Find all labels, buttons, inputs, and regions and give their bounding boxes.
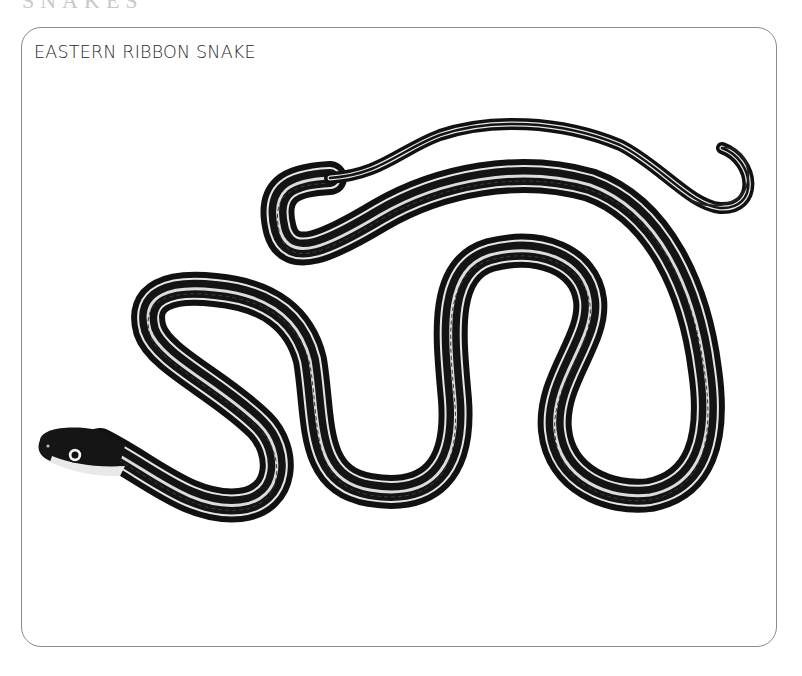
snake-illustration [0,0,802,676]
snake-body-outline [100,176,708,505]
snake-stripe-outer [100,176,708,505]
snake-scale-texture [100,181,708,510]
snake-stripe-center [100,176,708,505]
snake-body-dark [100,176,708,505]
